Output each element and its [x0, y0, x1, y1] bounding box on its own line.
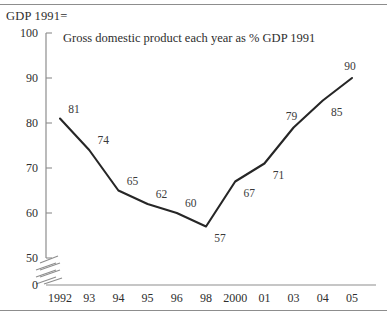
data-point-label: 90: [344, 60, 356, 72]
x-tick-label: 05: [346, 291, 358, 306]
data-point-label: 79: [286, 110, 298, 122]
y-tick-label: 60: [8, 206, 38, 221]
x-tick-label: 94: [112, 291, 124, 306]
data-point-label: 85: [331, 106, 343, 118]
y-tick-label: 100: [8, 26, 38, 41]
y-tick-label: 0: [8, 278, 38, 293]
y-tick-label: 90: [8, 71, 38, 86]
x-tick-label: 2000: [223, 291, 247, 306]
x-tick-label: 93: [83, 291, 95, 306]
data-point-label: 62: [156, 188, 168, 200]
x-tick-label: 03: [288, 291, 300, 306]
x-tick-label: 1992: [48, 291, 72, 306]
plot-area: 05060708090100 1992939495969820000103040…: [0, 0, 387, 320]
axis-break-marks: [36, 256, 62, 284]
x-tick-label: 95: [142, 291, 154, 306]
data-point-label: 67: [243, 187, 255, 199]
x-tick-label: 01: [258, 291, 270, 306]
y-tick-label: 80: [8, 116, 38, 131]
data-point-label: 81: [68, 103, 80, 115]
chart-page: GDP 1991= Gross domestic product each ye…: [0, 0, 387, 320]
data-point-label: 57: [214, 232, 226, 244]
x-tick-label: 96: [171, 291, 183, 306]
y-tick-label: 50: [8, 251, 38, 266]
x-tick-label: 98: [200, 291, 212, 306]
chart-svg: [0, 0, 387, 320]
x-tick-label: 04: [317, 291, 329, 306]
data-point-label: 71: [273, 169, 285, 181]
y-tick-label: 70: [8, 161, 38, 176]
y-tick-marks: [46, 33, 52, 258]
data-point-label: 65: [127, 175, 139, 187]
data-point-label: 74: [97, 134, 109, 146]
data-point-label: 60: [185, 197, 197, 209]
data-series-line: [60, 78, 352, 227]
